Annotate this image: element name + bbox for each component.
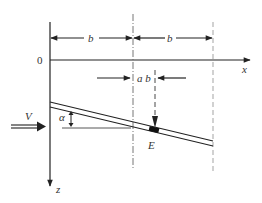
point-e-label: E [147, 139, 155, 151]
angle-label: α [59, 111, 65, 123]
z-axis-label: z [55, 183, 61, 195]
point-e-marker [149, 126, 160, 133]
inclined-plate [50, 102, 213, 146]
origin-label: 0 [37, 54, 43, 66]
left-span-label: b [88, 32, 94, 44]
velocity-arrow [11, 122, 46, 132]
right-span-label: b [167, 32, 173, 44]
x-axis-label: x [241, 63, 247, 75]
velocity-label: V [25, 110, 33, 122]
diagram-canvas: b b 0 x a b E α V z [0, 0, 262, 203]
angle-indicator [69, 111, 74, 127]
offset-label: a b [137, 72, 151, 84]
